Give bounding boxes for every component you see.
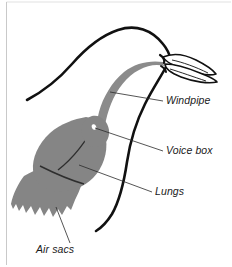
label-lungs: Lungs xyxy=(155,185,185,197)
label-voice-box: Voice box xyxy=(166,144,213,156)
label-air-sacs: Air sacs xyxy=(35,243,75,255)
diagram-background xyxy=(0,0,232,267)
label-windpipe: Windpipe xyxy=(166,94,211,106)
bird-respiratory-diagram: Windpipe Voice box Lungs Air sacs xyxy=(0,0,232,267)
figure-root: Windpipe Voice box Lungs Air sacs xyxy=(0,0,232,267)
